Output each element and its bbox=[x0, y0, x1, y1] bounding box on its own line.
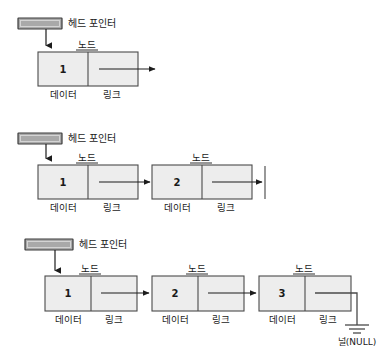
link-label-2-1: 링크 bbox=[103, 202, 121, 213]
link-label-3-3: 링크 bbox=[319, 314, 337, 325]
diagram-1: 헤드 포인터 노드 1 데이터 링크 bbox=[18, 18, 155, 100]
head-pointer-label: 헤드 포인터 bbox=[68, 18, 116, 29]
linked-list-figure: 헤드 포인터 노드 1 데이터 링크 헤드 포인터 bbox=[0, 0, 385, 351]
node-value: 2 bbox=[174, 177, 181, 188]
node-value: 1 bbox=[65, 288, 72, 299]
link-label-2-2: 링크 bbox=[217, 202, 235, 213]
head-pointer-label: 헤드 포인터 bbox=[68, 133, 116, 144]
node-label-3-2: 노드 bbox=[188, 263, 206, 274]
data-label-3-1: 데이터 bbox=[55, 314, 82, 325]
link-label-3-2: 링크 bbox=[212, 314, 230, 325]
data-label-3-3: 데이터 bbox=[269, 314, 296, 325]
node-value: 2 bbox=[172, 288, 179, 299]
link-label-3-1: 링크 bbox=[105, 314, 123, 325]
head-pointer-label: 헤드 포인터 bbox=[79, 239, 127, 250]
node-label-3-1: 노드 bbox=[81, 263, 99, 274]
link-label-1-1: 링크 bbox=[103, 89, 121, 100]
diagram-2: 헤드 포인터 노드 1 데이터 링크 노드 2 데이터 bbox=[18, 133, 265, 213]
diagram-3: 헤드 포인터 노드 1 데이터 링크 노드 2 데이터 링크 bbox=[25, 239, 376, 347]
node-label-1-1: 노드 bbox=[78, 39, 96, 50]
head-pointer-box bbox=[18, 18, 62, 29]
data-label-3-2: 데이터 bbox=[162, 314, 189, 325]
node-label-2-2: 노드 bbox=[192, 152, 210, 163]
head-pointer-box bbox=[18, 133, 62, 144]
node-value: 3 bbox=[279, 288, 286, 299]
node-label-3-3: 노드 bbox=[295, 263, 313, 274]
diagram-stage: 헤드 포인터 노드 1 데이터 링크 헤드 포인터 bbox=[0, 0, 385, 351]
head-pointer-box bbox=[25, 239, 73, 250]
null-label: 널(NULL) bbox=[338, 337, 376, 347]
data-label-2-1: 데이터 bbox=[50, 202, 77, 213]
node-value: 1 bbox=[60, 64, 67, 75]
data-label-1-1: 데이터 bbox=[50, 89, 77, 100]
node-value: 1 bbox=[60, 177, 67, 188]
data-label-2-2: 데이터 bbox=[164, 202, 191, 213]
node-label-2-1: 노드 bbox=[78, 152, 96, 163]
